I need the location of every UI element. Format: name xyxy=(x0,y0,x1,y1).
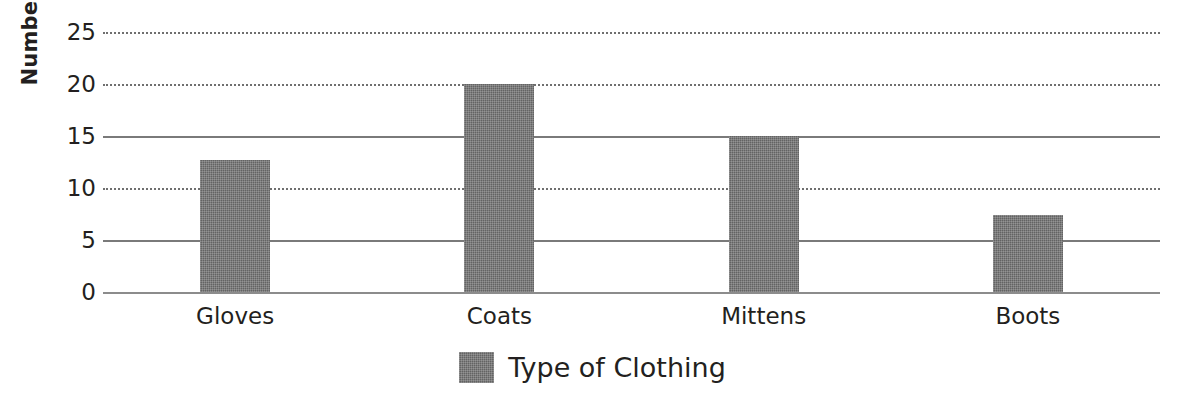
legend-label: Type of Clothing xyxy=(508,354,726,381)
gridline-25 xyxy=(103,32,1160,34)
y-axis-tick-labels: 0510152025 xyxy=(40,0,96,410)
x-tick-label-gloves: Gloves xyxy=(196,305,274,328)
gridline-15 xyxy=(103,136,1160,138)
y-tick-label-25: 25 xyxy=(40,21,96,44)
bar-mittens xyxy=(729,136,799,292)
chart-legend: Type of Clothing xyxy=(0,352,1185,383)
y-tick-label-15: 15 xyxy=(40,125,96,148)
bar-coats xyxy=(464,84,534,292)
bar-boots xyxy=(993,215,1063,292)
bar-chart: Number of items 0510152025 GlovesCoatsMi… xyxy=(0,0,1185,410)
x-tick-label-coats: Coats xyxy=(467,305,532,328)
plot-area xyxy=(103,32,1160,292)
x-tick-label-mittens: Mittens xyxy=(721,305,806,328)
gridline-0 xyxy=(103,292,1160,294)
bar-gloves xyxy=(200,160,270,292)
y-tick-label-0: 0 xyxy=(40,281,96,304)
y-tick-label-20: 20 xyxy=(40,73,96,96)
legend-swatch-icon xyxy=(459,352,494,383)
gridline-20 xyxy=(103,84,1160,86)
x-tick-label-boots: Boots xyxy=(995,305,1060,328)
y-tick-label-5: 5 xyxy=(40,229,96,252)
y-tick-label-10: 10 xyxy=(40,177,96,200)
